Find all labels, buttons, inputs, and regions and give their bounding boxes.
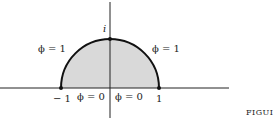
label-arc-right: ϕ = 1 <box>152 44 180 54</box>
label-arc-left: ϕ = 1 <box>38 44 66 54</box>
label-neg-one: − 1 <box>53 94 71 104</box>
label-base-right: ϕ = 0 <box>115 92 143 102</box>
label-i: i <box>103 24 106 34</box>
label-one: 1 <box>156 94 162 104</box>
point-one <box>157 86 161 90</box>
point-neg-one <box>59 86 63 90</box>
figure-caption: FIGUI <box>246 109 274 117</box>
label-base-left: ϕ = 0 <box>77 92 105 102</box>
point-i <box>108 37 112 41</box>
semicircle-diagram <box>0 0 274 121</box>
